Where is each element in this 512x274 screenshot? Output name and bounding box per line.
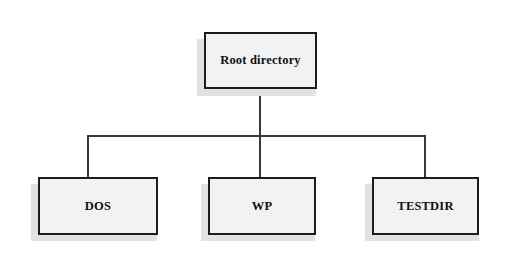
node-root-directory[interactable]: Root directory xyxy=(204,32,317,89)
node-wp[interactable]: WP xyxy=(208,177,316,235)
directory-tree-diagram: Root directory DOS WP TESTDIR xyxy=(0,0,512,274)
node-dos-label: DOS xyxy=(85,200,111,213)
node-wp-label: WP xyxy=(252,200,273,213)
node-root-directory-label: Root directory xyxy=(220,54,301,67)
connector-drop-testdir xyxy=(424,135,426,177)
connector-horizontal-bus xyxy=(87,135,426,137)
node-testdir[interactable]: TESTDIR xyxy=(372,177,479,235)
connector-drop-dos xyxy=(87,135,89,177)
node-testdir-label: TESTDIR xyxy=(397,200,453,213)
node-dos[interactable]: DOS xyxy=(38,177,158,235)
